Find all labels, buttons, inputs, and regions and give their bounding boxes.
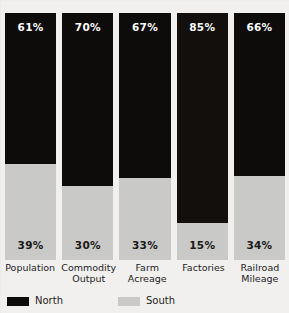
- bar-segment-south: 33%: [119, 178, 170, 260]
- bar-segment-north: 61%: [5, 13, 56, 164]
- category-label-population: Population: [5, 263, 55, 284]
- legend-label-south: South: [146, 296, 175, 306]
- category-label-factories: Factories: [178, 263, 228, 284]
- bar-segment-south: 39%: [5, 164, 56, 260]
- chart-legend: North South: [7, 296, 282, 310]
- bar-segment-south: 34%: [234, 176, 285, 260]
- bar-column-factories[interactable]: 85% 15%: [177, 13, 228, 260]
- bar-segment-north: 66%: [234, 13, 285, 176]
- category-label-line1: Population: [5, 263, 55, 274]
- bar-column-farm-acreage[interactable]: 67% 33%: [119, 13, 170, 260]
- bar-column-railroad-mileage[interactable]: 66% 34%: [234, 13, 285, 260]
- chart-page: 61% 39% 70% 30% 67% 33% 85%: [0, 0, 289, 313]
- bar-value-south: 34%: [246, 240, 272, 251]
- bar-value-south: 30%: [75, 240, 101, 251]
- bar-value-north: 85%: [189, 22, 215, 33]
- category-label-line2: Acreage: [122, 274, 172, 285]
- category-label-farm-acreage: Farm Acreage: [122, 263, 172, 284]
- legend-swatch-north: [7, 297, 29, 306]
- stacked-bar-plot: 61% 39% 70% 30% 67% 33% 85%: [5, 13, 285, 260]
- category-label-railroad-mileage: Railroad Mileage: [235, 263, 285, 284]
- category-label-line2: Mileage: [235, 274, 285, 285]
- bar-segment-south: 15%: [177, 223, 228, 260]
- bar-value-north: 61%: [18, 22, 44, 33]
- bar-column-population[interactable]: 61% 39%: [5, 13, 56, 260]
- legend-item-south[interactable]: South: [118, 296, 175, 306]
- legend-label-north: North: [35, 296, 63, 306]
- bar-value-south: 33%: [132, 240, 158, 251]
- chart-title: [0, 0, 289, 4]
- category-label-line1: Commodity: [61, 263, 116, 274]
- category-axis-labels: Population Commodity Output Farm Acreage…: [5, 263, 285, 284]
- bar-value-north: 66%: [246, 22, 272, 33]
- bar-segment-north: 70%: [62, 13, 113, 186]
- bar-value-south: 39%: [18, 240, 44, 251]
- bar-segment-north: 85%: [177, 13, 228, 223]
- bar-value-south: 15%: [189, 240, 215, 251]
- category-label-line1: Farm: [122, 263, 172, 274]
- bar-value-north: 67%: [132, 22, 158, 33]
- bar-column-commodity-output[interactable]: 70% 30%: [62, 13, 113, 260]
- legend-item-north[interactable]: North: [7, 296, 63, 306]
- category-label-line1: Railroad: [235, 263, 285, 274]
- category-label-commodity-output: Commodity Output: [61, 263, 116, 284]
- category-label-line2: Output: [61, 274, 116, 285]
- bar-value-north: 70%: [75, 22, 101, 33]
- bar-segment-south: 30%: [62, 186, 113, 260]
- bar-segment-north: 67%: [119, 13, 170, 178]
- legend-swatch-south: [118, 297, 140, 306]
- category-label-line1: Factories: [178, 263, 228, 274]
